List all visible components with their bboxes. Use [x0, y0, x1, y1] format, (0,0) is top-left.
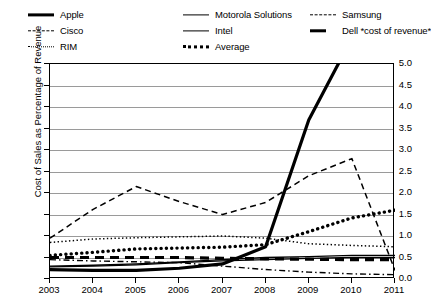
legend-label: Average: [215, 41, 250, 52]
x-tick-label: 2005: [113, 285, 157, 295]
legend-label: RIM: [60, 41, 77, 52]
legend-swatch-icon: [183, 9, 209, 20]
x-tick-label: 2008: [243, 285, 287, 295]
chart-legend: AppleCiscoRIMMotorola SolutionsIntelAver…: [28, 8, 412, 54]
series-line-average: [50, 210, 395, 255]
legend-label: Intel: [215, 25, 232, 36]
x-tick-label: 2010: [329, 285, 373, 295]
legend-item-average[interactable]: Average: [183, 40, 250, 53]
x-tick-mark: [49, 278, 50, 283]
x-tick-mark: [265, 278, 266, 283]
series-line-samsung: [50, 260, 395, 275]
legend-swatch-icon: [183, 41, 209, 52]
x-tick-label: 2007: [200, 285, 244, 295]
x-tick-label: 2009: [286, 285, 330, 295]
legend-swatch-icon: [310, 9, 336, 20]
series-line-rim: [50, 236, 395, 247]
x-tick-mark: [178, 278, 179, 283]
legend-label: Motorola Solutions: [215, 9, 292, 20]
legend-swatch-icon: [310, 25, 336, 36]
legend-swatch-icon: [183, 25, 209, 36]
x-tick-mark: [135, 278, 136, 283]
x-tick-mark: [351, 278, 352, 283]
y-axis-title: Cost of Sales as Percentage of Revenue: [32, 12, 43, 212]
legend-label: Apple: [60, 9, 84, 20]
series-layer: [50, 64, 395, 279]
x-tick-label: 2011: [372, 285, 416, 295]
x-tick-mark: [308, 278, 309, 283]
plot-area: [49, 63, 394, 278]
x-tick-label: 2004: [70, 285, 114, 295]
x-tick-mark: [92, 278, 93, 283]
x-tick-label: 2003: [27, 285, 71, 295]
x-tick-mark: [394, 278, 395, 283]
legend-item-intel[interactable]: Intel: [183, 24, 232, 37]
x-tick-mark: [222, 278, 223, 283]
legend-label: Dell *cost of revenue*: [342, 25, 431, 36]
series-line-cisco: [50, 159, 395, 271]
legend-label: Cisco: [60, 25, 83, 36]
legend-item-dell-cost-of-revenue[interactable]: Dell *cost of revenue*: [310, 24, 431, 37]
legend-item-motorola-solutions[interactable]: Motorola Solutions: [183, 8, 292, 21]
legend-item-samsung[interactable]: Samsung: [310, 8, 381, 21]
legend-label: Samsung: [342, 9, 381, 20]
x-tick-label: 2006: [156, 285, 200, 295]
